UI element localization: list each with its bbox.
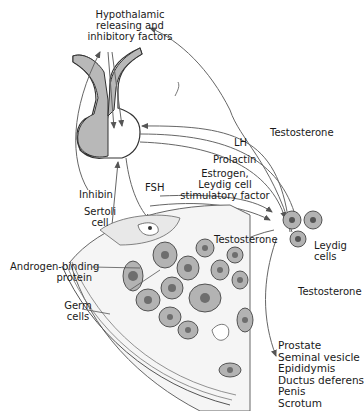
label-hypothalamic-factors: Hypothalamic releasing and inhibitory fa… <box>70 9 190 42</box>
label-line: Androgen-binding <box>10 261 92 272</box>
label-line: Sertoli <box>78 206 122 217</box>
label-leydig-cells: Leydig cells <box>314 240 347 262</box>
target-scrotum: Scrotum <box>278 398 364 410</box>
label-line: cells <box>314 251 347 262</box>
label-germ-cells: Germ cells <box>58 300 98 322</box>
target-prostate: Prostate <box>278 340 364 352</box>
label-androgen-binding-protein: Androgen-binding protein <box>10 261 92 283</box>
label-line: Estrogen, <box>172 168 278 179</box>
target-penis: Penis <box>278 386 364 398</box>
label-sertoli-cell: Sertoli cell <box>78 206 122 228</box>
label-line: protein <box>10 272 92 283</box>
label-line: inhibitory factors <box>70 31 190 42</box>
target-epididymis: Epididymis <box>278 363 364 375</box>
label-inhibin: Inhibin <box>79 189 113 200</box>
label-testosterone-local: Testosterone <box>214 234 278 245</box>
label-line: stimulatory factor <box>172 190 278 201</box>
label-prolactin: Prolactin <box>213 154 256 165</box>
label-line: Leydig cell <box>172 179 278 190</box>
label-lh: LH <box>234 137 247 148</box>
pituitary-gland <box>73 48 142 158</box>
label-line: cell <box>78 217 122 228</box>
target-organ-list: Prostate Seminal vesicle Epididymis Duct… <box>278 340 364 409</box>
label-testosterone-feedback: Testosterone <box>270 127 334 138</box>
label-estrogen-leydig-factor: Estrogen, Leydig cell stimulatory factor <box>172 168 278 201</box>
label-line: Leydig <box>314 240 347 251</box>
label-line: Germ <box>58 300 98 311</box>
label-fsh: FSH <box>145 182 164 193</box>
label-line: cells <box>58 311 98 322</box>
label-line: releasing and <box>70 20 190 31</box>
label-line: Hypothalamic <box>70 9 190 20</box>
label-testosterone-peripheral: Testosterone <box>298 286 362 297</box>
